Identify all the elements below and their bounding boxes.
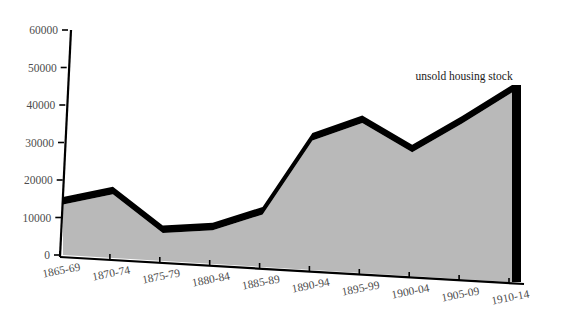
series-area-unsold-housing-stock (63, 85, 521, 282)
value-axis-tick-label: 40000 (27, 99, 56, 111)
period-axis-tick-label: 1910-14 (490, 287, 530, 306)
area-fill-front (63, 93, 512, 282)
value-axis-tick-labels: 0100002000030000400005000060000 (23, 24, 59, 261)
chart-annotations: unsold housing stock (416, 70, 513, 83)
period-axis-tick-label: 1900-04 (390, 281, 430, 300)
value-axis-tick-label: 10000 (23, 212, 52, 224)
period-axis-tick-label: 1890-94 (291, 275, 331, 294)
value-axis-tick-label: 0 (44, 249, 50, 261)
area-fill-right-side (512, 85, 521, 282)
period-axis-tick-label: 1870-74 (91, 263, 131, 282)
chart-figure: 0100002000030000400005000060000 1865-691… (0, 0, 562, 323)
value-axis-tick-label: 50000 (28, 62, 57, 74)
period-axis-tick-label: 1880-84 (191, 269, 231, 288)
value-axis-tick-label: 30000 (25, 137, 54, 149)
period-axis-tick-label: 1865-69 (41, 260, 81, 279)
value-axis-tick-label: 60000 (29, 24, 58, 36)
value-axis-tick-label: 20000 (24, 174, 53, 186)
period-axis-tick-label: 1875-79 (141, 266, 181, 285)
period-axis-tick-label: 1895-99 (341, 278, 381, 297)
period-axis-tick-label: 1885-89 (241, 272, 281, 291)
series-annotation-label: unsold housing stock (416, 70, 513, 83)
area-chart-canvas: 0100002000030000400005000060000 1865-691… (0, 0, 562, 323)
period-axis-tick-label: 1905-09 (440, 284, 480, 303)
